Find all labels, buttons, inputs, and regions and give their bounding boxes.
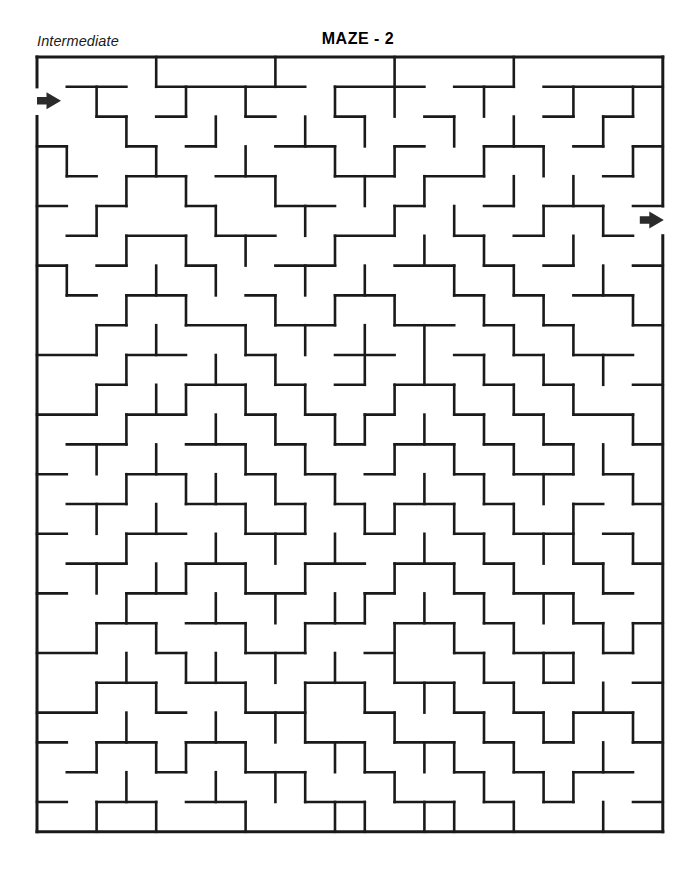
entrance-arrow-icon-glyph [37,92,61,109]
maze-grid [0,0,698,887]
maze-wall-layer [37,57,663,832]
maze-canvas [0,0,698,887]
entrance-arrow-icon [37,92,61,109]
maze-page: Intermediate MAZE - 2 [0,0,698,887]
maze-marker-layer [37,92,664,228]
